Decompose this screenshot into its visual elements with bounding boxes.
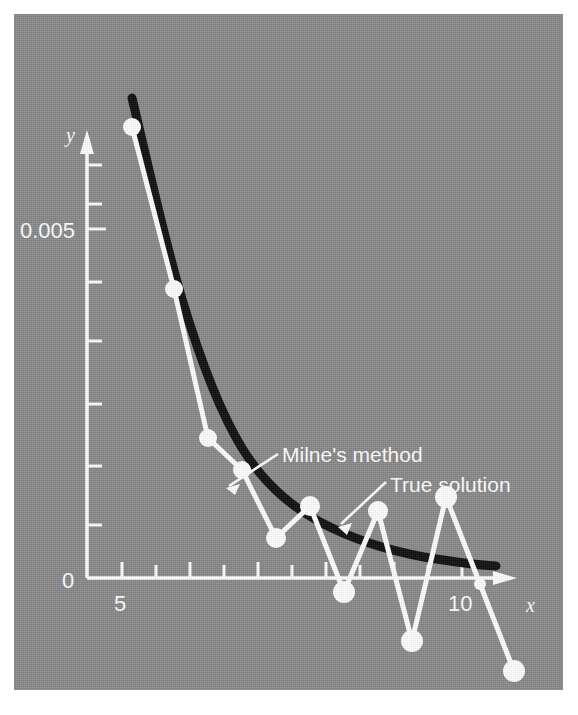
milne-annotation-label: Milne's method: [282, 443, 423, 466]
x-tick-label-10: 10: [448, 591, 472, 616]
x-tick-marks: [122, 562, 462, 578]
y-axis-arrowhead: [80, 130, 94, 154]
data-point: [503, 660, 525, 682]
x-tick-label-5: 5: [114, 591, 126, 616]
y-tick-marks: [87, 165, 106, 525]
series-milne-method-line: [132, 127, 514, 671]
data-point: [368, 501, 388, 521]
y-tick-label-0005: 0.005: [20, 218, 75, 243]
milne-annotation-arrowhead: [226, 484, 240, 495]
data-point: [266, 528, 286, 548]
y-axis-label: y: [64, 124, 75, 147]
chart-plot-panel: y x 0.005 0 5 10 Milne's method True sol…: [14, 14, 563, 690]
true-solution-annotation-label: True solution: [390, 473, 511, 496]
data-point: [401, 630, 423, 652]
y-tick-label-0: 0: [62, 568, 74, 593]
data-point: [165, 280, 183, 298]
figure-root: y x 0.005 0 5 10 Milne's method True sol…: [0, 0, 578, 715]
x-axis-arrowhead: [493, 571, 517, 585]
chart-svg: y x 0.005 0 5 10 Milne's method True sol…: [14, 14, 563, 690]
data-point: [123, 118, 141, 136]
data-point: [300, 496, 320, 516]
data-point: [333, 581, 355, 603]
data-point: [199, 429, 217, 447]
data-point: [474, 578, 486, 590]
x-axis-label: x: [525, 594, 535, 616]
